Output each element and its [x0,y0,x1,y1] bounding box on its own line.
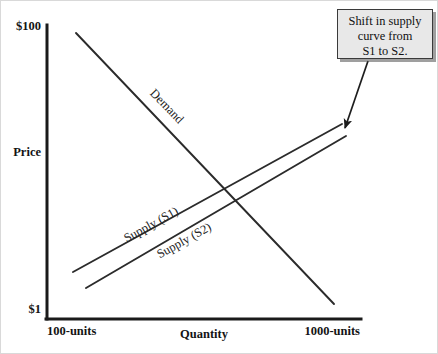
curve-labels: Demand Supply (S1) Supply (S2) [121,86,213,261]
y-axis-bottom-tick: $1 [29,302,42,316]
x-axis-label: Quantity [180,327,229,341]
axis-labels: $100 $1 Price 100-units 1000-units Quant… [13,19,360,341]
callout-box: Shift in supply curve from S1 to S2. [337,9,433,59]
supply-s1-curve [73,124,342,272]
supply-s2-curve [86,136,346,288]
axis-group [46,25,361,319]
demand-curve-label: Demand [147,86,187,127]
y-axis-label: Price [13,145,41,159]
curve-group [73,33,346,304]
demand-curve [76,33,334,304]
x-axis-left-tick: 100-units [47,324,96,338]
callout-arrow [345,61,368,128]
y-axis-top-tick: $100 [16,19,41,33]
x-axis-right-tick: 1000-units [304,324,360,338]
supply-demand-diagram: $100 $1 Price 100-units 1000-units Quant… [0,0,438,354]
supply-s2-curve-label: Supply (S2) [154,220,213,261]
